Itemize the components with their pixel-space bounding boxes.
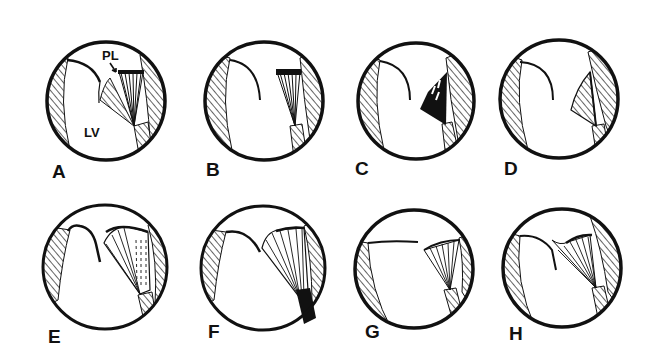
panel-h: H	[498, 205, 628, 344]
panel-label-b: B	[206, 159, 220, 180]
right-wall-hatched	[300, 45, 330, 170]
panel-label-h: H	[509, 323, 523, 344]
prolapsed-leaflet-black	[420, 72, 447, 125]
panel-g: G	[350, 210, 480, 342]
panel-label-e: E	[48, 326, 61, 347]
panel-d: D	[495, 40, 625, 179]
papillary-muscle	[138, 292, 156, 325]
panel-label-g: G	[365, 321, 380, 342]
anterior-leaflet-flat	[368, 241, 418, 243]
panel-b: B	[198, 42, 330, 180]
anterior-leaflet	[380, 61, 410, 100]
billowing-leaflet	[104, 227, 150, 294]
panel-label-f: F	[208, 321, 220, 342]
panel-label-a: A	[52, 161, 66, 182]
pl-label: PL	[102, 48, 119, 63]
panel-e: E	[38, 205, 172, 347]
valve-diagram-figure: PL LV A B C	[0, 0, 648, 359]
panel-a: PL LV A	[40, 42, 170, 182]
leaflet-edge	[118, 70, 144, 74]
panel-label-c: C	[355, 158, 369, 179]
leaflet-edge	[276, 69, 301, 75]
anterior-leaflet	[68, 226, 100, 262]
right-wall-hatched	[459, 230, 480, 320]
panel-f: F	[196, 206, 330, 342]
anterior-leaflet	[226, 231, 260, 252]
pl-arrow-icon	[110, 63, 116, 72]
lv-label: LV	[84, 125, 100, 140]
ventricle-outline	[355, 210, 473, 328]
anterior-leaflet	[520, 236, 556, 270]
anterior-leaflet	[230, 60, 260, 100]
ventricle-outline	[503, 209, 621, 327]
panel-label-d: D	[504, 158, 518, 179]
panel-c: C	[352, 43, 480, 179]
anterior-leaflet	[67, 60, 100, 82]
anterior-leaflet	[520, 62, 553, 100]
